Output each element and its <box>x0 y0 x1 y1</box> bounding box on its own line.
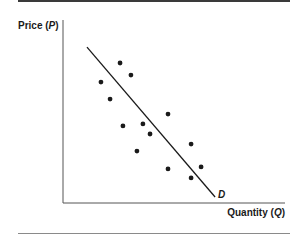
demand-line <box>87 47 215 197</box>
data-point <box>129 73 134 78</box>
data-point <box>148 132 153 137</box>
data-point <box>141 122 146 127</box>
data-point <box>135 149 140 154</box>
data-point <box>121 124 126 129</box>
data-point <box>189 176 194 181</box>
x-axis-label-suffix: ) <box>282 207 285 218</box>
data-point <box>108 97 113 102</box>
x-axis-label-prefix: Quantity ( <box>227 207 274 218</box>
data-point <box>99 80 104 85</box>
data-point <box>118 61 123 66</box>
data-point <box>166 167 171 172</box>
demand-curve-d <box>87 47 215 197</box>
data-point <box>166 112 171 117</box>
demand-curve-label: D <box>218 189 225 200</box>
x-axis-label: Quantity (Q) <box>227 207 285 218</box>
x-axis-variable: Q <box>274 207 282 218</box>
data-point <box>199 165 204 170</box>
data-point <box>189 142 194 147</box>
scatter-plot <box>0 0 304 235</box>
bottom-rule <box>18 233 290 234</box>
